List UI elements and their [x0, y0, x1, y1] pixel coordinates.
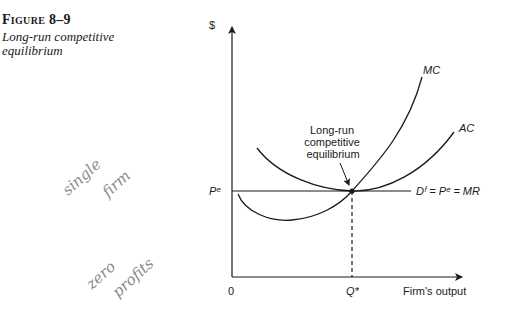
q-star-label: Q* — [346, 285, 360, 297]
ac-label: AC — [458, 122, 474, 134]
annotation-line-2: competitive — [304, 136, 360, 148]
annotation-arrow — [340, 163, 349, 185]
note-single-firm-2: firm — [98, 167, 134, 202]
chart: single firm zero profits $ 0 Pᵉ Q* Firm'… — [0, 0, 510, 315]
origin-label: 0 — [228, 285, 234, 297]
note-single-firm: single — [59, 155, 105, 199]
handwritten-notes: single firm zero profits — [59, 155, 158, 301]
y-axis-label: $ — [209, 19, 215, 31]
mc-label: MC — [423, 64, 440, 76]
demand-label: Dᶠ = Pᵉ = MR — [416, 185, 480, 197]
annotation-line-3: equilibrium — [306, 148, 359, 160]
x-axis-label: Firm's output — [403, 285, 466, 297]
equilibrium-point — [349, 188, 354, 193]
pe-label: Pᵉ — [209, 185, 221, 197]
note-profits: profits — [109, 254, 158, 301]
annotation-line-1: Long-run — [310, 124, 354, 136]
